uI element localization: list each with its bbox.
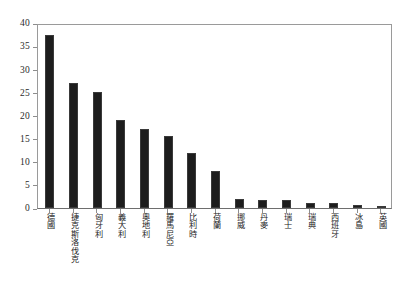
bar-slot [377,25,386,208]
bar [258,200,267,208]
bar [282,200,291,208]
x-axis-tick-label: 西班牙 [327,213,338,238]
x-axis-tick-label: 英國 [375,213,386,230]
bar [353,205,362,208]
y-axis-tick-label: 40 [20,19,33,29]
bar-slot [93,25,102,208]
y-axis-tick: 10 [0,162,37,163]
bar-slot [353,25,362,208]
y-axis-tick: 25 [0,93,37,94]
bar-slot [187,25,196,208]
x-axis-tick-label: 瑞典 [304,213,315,230]
bar-slot [140,25,149,208]
bar-chart: 0510152025303540 德國捷克斯洛伐克匈牙利義大利奧地利羅馬尼亞比利… [0,0,403,281]
y-axis-tick-label: 35 [20,42,33,52]
x-axis-tick-label: 匈牙利 [91,213,102,238]
x-axis-tick-label: 德國 [43,213,54,230]
x-axis-tick-label: 荷蘭 [209,213,220,230]
y-axis-tick-label: 30 [20,65,33,75]
bar-slot [258,25,267,208]
x-axis-tick-label: 冰島 [351,213,362,230]
x-axis-tick-label: 奧地利 [138,213,149,238]
y-axis-tick-label: 25 [20,88,33,98]
y-axis-tick: 5 [0,185,37,186]
x-axis-tick-label: 挪威 [233,213,244,230]
y-axis-tick: 0 [0,209,37,210]
x-axis-tick-label: 瑞士 [280,213,291,230]
bar-slot [69,25,78,208]
bar [116,120,125,208]
bar-slot [164,25,173,208]
bar [329,203,338,208]
bar [377,206,386,208]
x-axis-tick-label: 羅馬尼亞 [162,213,173,247]
bar-slot [306,25,315,208]
y-axis-tick: 15 [0,139,37,140]
y-axis-tick-label: 0 [25,204,33,214]
x-axis-tick-label: 捷克斯洛伐克 [67,213,78,263]
bar [187,153,196,208]
bar [306,203,315,208]
y-axis-tick: 20 [0,116,37,117]
bar-slot [116,25,125,208]
y-axis-tick: 40 [0,24,37,25]
y-axis-tick-label: 15 [20,134,33,144]
y-axis-tick-label: 10 [20,158,33,168]
bar-slot [235,25,244,208]
bar-slot [282,25,291,208]
x-axis-tick-label: 丹麥 [256,213,267,230]
bar [93,92,102,208]
x-axis-tick-label: 比利時 [185,213,196,238]
y-axis-tick-label: 5 [25,181,33,191]
bar [211,171,220,208]
bar [69,83,78,208]
y-axis-tick: 35 [0,47,37,48]
y-axis-tick: 30 [0,70,37,71]
y-axis-tick-label: 20 [20,111,33,121]
bar [235,199,244,208]
bar-slot [211,25,220,208]
bar-slot [329,25,338,208]
x-axis-tick-label: 義大利 [114,213,125,238]
plot-area [37,24,392,209]
bar [140,129,149,208]
bar [164,136,173,208]
bar [45,35,54,208]
bar-slot [45,25,54,208]
